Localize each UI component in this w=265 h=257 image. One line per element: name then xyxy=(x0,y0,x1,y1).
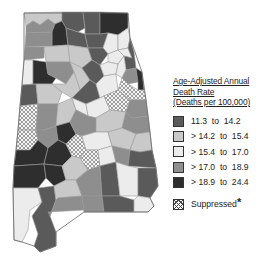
legend-label: > 17.0 to 18.9 xyxy=(191,162,249,172)
legend-item: > 17.0 to 18.9 xyxy=(173,159,265,174)
legend-swatch xyxy=(173,162,184,173)
legend-items: 11.3 to 14.2 > 14.2 to 15.4 > 15.4 to 17… xyxy=(173,114,265,190)
hatch-swatch-icon xyxy=(173,199,184,210)
suppressed-text: Suppressed xyxy=(191,199,237,209)
county xyxy=(138,168,158,198)
county xyxy=(24,47,44,60)
map-legend: Age-Adjusted Annual Death Rate (Deaths p… xyxy=(173,76,265,211)
county xyxy=(82,196,104,212)
county xyxy=(20,84,38,106)
county xyxy=(134,196,154,212)
county xyxy=(83,12,100,34)
legend-label: > 15.4 to 17.0 xyxy=(191,147,249,157)
county xyxy=(18,104,38,130)
legend-item: > 15.4 to 17.0 xyxy=(173,144,265,159)
legend-swatch xyxy=(173,177,184,188)
legend-item: 11.3 to 14.2 xyxy=(173,114,265,129)
asterisk-icon: * xyxy=(237,196,241,208)
legend-item: > 18.9 to 24.4 xyxy=(173,175,265,190)
county xyxy=(36,104,58,130)
legend-suppressed: Suppressed* xyxy=(173,199,265,211)
county xyxy=(102,196,134,212)
legend-swatch xyxy=(173,131,184,142)
legend-title: Age-Adjusted Annual Death Rate (Deaths p… xyxy=(173,76,265,108)
county xyxy=(25,32,52,47)
suppressed-label: Suppressed* xyxy=(191,199,241,211)
county xyxy=(44,45,70,62)
legend-label: 11.3 to 14.2 xyxy=(191,116,241,126)
legend-item: > 14.2 to 15.4 xyxy=(173,129,265,144)
legend-title-line: Death Rate xyxy=(173,87,265,98)
legend-label: > 14.2 to 15.4 xyxy=(191,131,249,141)
county xyxy=(13,164,46,188)
legend-title-line: (Deaths per 100,000) xyxy=(173,97,265,108)
county-shapes xyxy=(13,12,158,252)
legend-swatch xyxy=(173,116,184,127)
legend-label: > 18.9 to 24.4 xyxy=(191,177,249,187)
county xyxy=(128,150,156,168)
county xyxy=(116,162,138,196)
legend-swatch xyxy=(173,146,184,157)
legend-title-line: Age-Adjusted Annual xyxy=(173,76,265,87)
